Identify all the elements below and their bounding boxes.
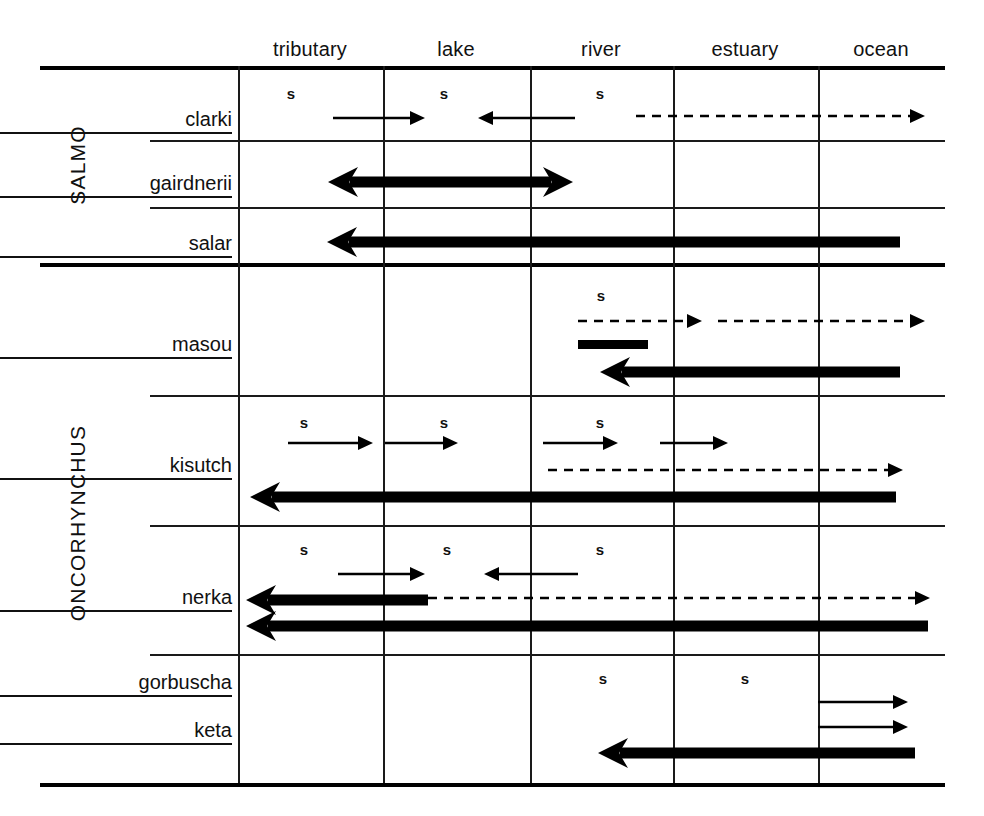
arrow-keta-heavy-left (579, 734, 934, 772)
species-label-masou: masou (0, 333, 232, 359)
arrow-masou-heavy-left (581, 353, 919, 391)
grid-hline-1 (150, 140, 945, 142)
migration-matrix-figure: tributarylakeriverestuaryocean SALMOONCO… (0, 0, 984, 816)
arrow-clarki-dashed-right (625, 105, 936, 127)
arrow-nerka-thin-left (473, 563, 589, 585)
arrow-masou-dashed-right (707, 310, 936, 332)
species-label-gairdnerii: gairdnerii (0, 172, 232, 198)
spawning-mark-gorbuscha-river: s (599, 670, 607, 687)
grid-hline-7 (40, 783, 945, 787)
species-label-kisutch: kisutch (0, 454, 232, 480)
species-label-clarki: clarki (0, 108, 232, 134)
arrow-kisutch-thin-right (532, 432, 629, 454)
arrow-gairdnerii-heavy-both (309, 163, 592, 201)
spawning-mark-nerka-river: s (596, 541, 604, 558)
arrow-clarki-thin-left (467, 107, 586, 129)
column-header-ocean: ocean (791, 38, 971, 61)
grid-vline-4 (818, 66, 820, 783)
arrow-nerka-heavy-left (227, 607, 947, 645)
spawning-mark-gorbuscha-estuary: s (741, 670, 749, 687)
spawning-mark-clarki-lake: s (440, 85, 448, 102)
spawning-mark-nerka-lake: s (443, 541, 451, 558)
spawning-mark-kisutch-tributary: s (300, 414, 308, 431)
arrow-kisutch-thin-right (649, 432, 739, 454)
grid-hline-4 (150, 395, 945, 397)
spawning-mark-kisutch-river: s (596, 414, 604, 431)
bar-masou (578, 340, 648, 349)
arrow-kisutch-heavy-left (231, 478, 915, 516)
spawning-mark-masou-river: s (597, 287, 605, 304)
arrow-kisutch-thin-right (277, 432, 384, 454)
grid-hline-6 (150, 654, 945, 656)
spawning-mark-clarki-river: s (596, 85, 604, 102)
species-label-keta: keta (0, 719, 232, 745)
arrow-kisutch-thin-right (374, 432, 469, 454)
grid-vline-0 (238, 66, 240, 783)
arrow-gorbuscha-thin-right (807, 691, 919, 713)
species-label-nerka: nerka (0, 586, 232, 612)
spawning-mark-nerka-tributary: s (300, 541, 308, 558)
arrow-masou-dashed-right (567, 310, 713, 332)
grid-hline-3 (40, 263, 945, 267)
spawning-mark-clarki-tributary: s (287, 85, 295, 102)
grid-hline-5 (150, 525, 945, 527)
grid-hline-2 (150, 207, 945, 209)
species-label-gorbuscha: gorbuscha (0, 671, 232, 697)
arrow-nerka-dashed-right (417, 587, 941, 609)
grid-hline-0 (40, 66, 945, 70)
species-label-salar: salar (0, 232, 232, 258)
grid-vline-3 (673, 66, 675, 783)
arrow-salar-heavy-left (308, 223, 919, 261)
arrow-clarki-thin-right (322, 107, 436, 129)
spawning-mark-kisutch-lake: s (440, 414, 448, 431)
